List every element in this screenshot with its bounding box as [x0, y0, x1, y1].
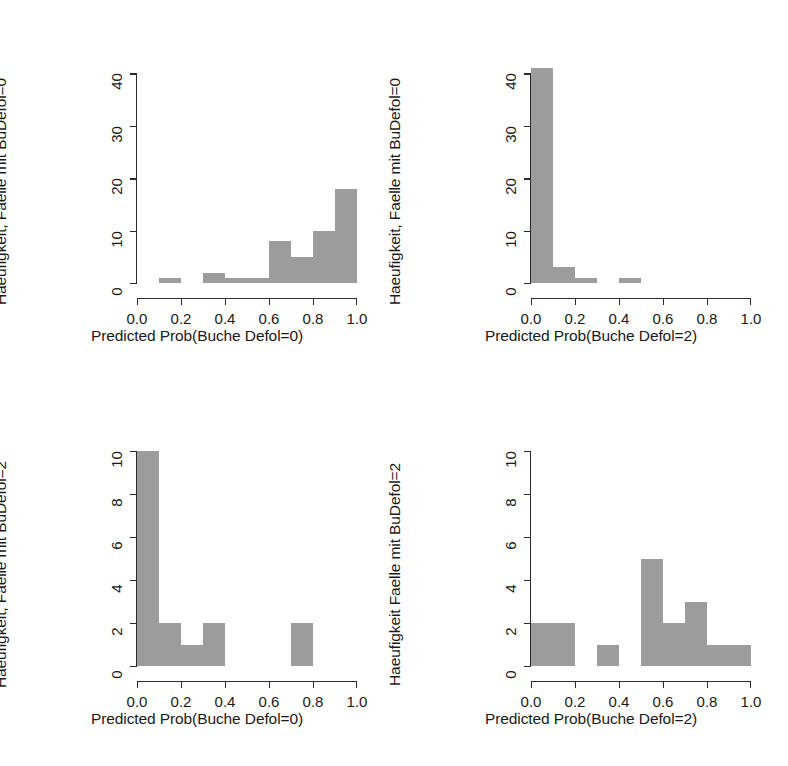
y-axis-tick — [524, 73, 531, 74]
histogram-bar — [685, 602, 707, 667]
x-axis: 0.00.20.40.60.81.0 — [137, 681, 357, 689]
y-axis-tick — [130, 537, 137, 538]
bar-series — [531, 451, 751, 666]
y-axis-tick-label: 10 — [108, 451, 125, 468]
y-axis-title: Haeufigkeit, Faelle mit BuDefol=0 — [0, 0, 30, 383]
x-axis-title: Predicted Prob(Buche Defol=2) — [394, 327, 788, 345]
x-axis-tick — [619, 681, 620, 688]
plot-area — [137, 68, 357, 283]
y-axis: 0246810 — [129, 451, 137, 666]
x-axis: 0.00.20.40.60.81.0 — [531, 298, 751, 306]
x-axis: 0.00.20.40.60.81.0 — [137, 298, 357, 306]
y-axis: 010203040 — [129, 68, 137, 283]
histogram-bar — [663, 623, 685, 666]
x-axis-tick — [269, 298, 270, 305]
histogram-bar — [247, 278, 269, 283]
plot-area — [531, 68, 751, 283]
y-axis-tick — [524, 451, 531, 452]
x-axis-tick — [356, 298, 357, 305]
x-axis-tick — [313, 681, 314, 688]
x-axis-tick-label: 0.8 — [303, 310, 324, 327]
histogram-bar — [137, 451, 159, 666]
y-axis-tick — [524, 283, 531, 284]
histogram-bar — [335, 189, 357, 283]
x-axis-tick-label: 1.0 — [741, 310, 762, 327]
bar-series — [531, 68, 751, 283]
y-axis-tick — [524, 494, 531, 495]
y-axis-tick-label: 8 — [108, 498, 125, 506]
y-axis-tick-label: 10 — [502, 451, 519, 468]
x-axis-tick — [531, 681, 532, 688]
y-axis-tick-label: 0 — [502, 287, 519, 295]
x-axis-line — [137, 298, 357, 299]
x-axis-tick — [181, 681, 182, 688]
x-axis-tick-label: 0.2 — [565, 693, 586, 710]
y-axis-tick — [524, 126, 531, 127]
histogram-bar — [597, 645, 619, 667]
x-axis-tick — [531, 298, 532, 305]
y-axis-tick-label: 0 — [108, 287, 125, 295]
x-axis-tick-label: 0.2 — [565, 310, 586, 327]
histogram-bar — [291, 623, 313, 666]
x-axis-tick-label: 0.8 — [697, 693, 718, 710]
x-axis-title: Predicted Prob(Buche Defol=0) — [0, 710, 394, 728]
x-axis-tick-label: 0.6 — [259, 693, 280, 710]
y-axis-tick-label: 10 — [108, 231, 125, 248]
x-axis-tick-label: 0.8 — [303, 693, 324, 710]
y-axis-tick-label: 6 — [108, 541, 125, 549]
x-axis-tick — [750, 681, 751, 688]
histogram-bar — [553, 623, 575, 666]
y-axis-tick — [130, 178, 137, 179]
x-axis-tick-label: 0.2 — [171, 693, 192, 710]
histogram-bar — [553, 267, 575, 283]
x-axis-tick-label: 1.0 — [741, 693, 762, 710]
y-axis-tick — [524, 537, 531, 538]
histogram-bar — [181, 645, 203, 667]
y-axis: 010203040 — [523, 68, 531, 283]
histogram-bar — [159, 278, 181, 283]
x-axis-tick — [356, 681, 357, 688]
histogram-figure: Haeufigkeit, Faelle mit BuDefol=0 010203… — [0, 0, 788, 766]
y-axis-tick — [130, 494, 137, 495]
y-axis-tick — [524, 178, 531, 179]
y-axis-tick-label: 4 — [502, 584, 519, 592]
y-axis-tick-label: 4 — [108, 584, 125, 592]
y-axis-tick — [130, 580, 137, 581]
x-axis-line — [531, 298, 751, 299]
y-axis-title: Haeufigkeit, Faelle mit BuDefol=0 — [394, 0, 424, 383]
y-axis-tick — [130, 231, 137, 232]
x-axis-tick — [750, 298, 751, 305]
y-axis-tick — [524, 231, 531, 232]
x-axis-title: Predicted Prob(Buche Defol=0) — [0, 327, 394, 345]
y-axis-tick-label: 8 — [502, 498, 519, 506]
histogram-bar — [619, 278, 641, 283]
bar-series — [137, 68, 357, 283]
panel-top-left: Haeufigkeit, Faelle mit BuDefol=0 010203… — [0, 0, 394, 383]
x-axis-tick-label: 0.6 — [259, 310, 280, 327]
histogram-bar — [531, 623, 553, 666]
histogram-bar — [269, 241, 291, 283]
x-axis-tick — [269, 681, 270, 688]
x-axis-tick — [663, 298, 664, 305]
y-axis-tick — [130, 283, 137, 284]
histogram-bar — [707, 645, 729, 667]
histogram-bar — [531, 68, 553, 283]
y-axis-tick — [130, 126, 137, 127]
x-axis-tick-label: 0.0 — [127, 310, 148, 327]
x-axis-tick-label: 0.4 — [215, 310, 236, 327]
x-axis-tick-label: 0.0 — [127, 693, 148, 710]
y-axis-title: Haeufigkeit, Faelle mit BuDefol=2 — [0, 383, 30, 766]
plot-area — [531, 451, 751, 666]
x-axis-tick — [663, 681, 664, 688]
panel-top-right: Haeufigkeit, Faelle mit BuDefol=0 010203… — [394, 0, 788, 383]
y-axis-tick — [130, 73, 137, 74]
y-axis-tick-label: 2 — [502, 627, 519, 635]
y-axis-tick — [524, 580, 531, 581]
bar-series — [137, 451, 357, 666]
x-axis-tick — [181, 298, 182, 305]
x-axis-tick-label: 0.2 — [171, 310, 192, 327]
y-axis-tick-label: 40 — [108, 73, 125, 90]
x-axis-tick — [707, 298, 708, 305]
histogram-bar — [225, 278, 247, 283]
histogram-bar — [203, 273, 225, 283]
